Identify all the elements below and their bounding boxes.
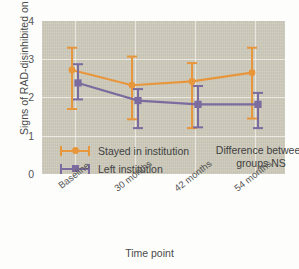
y-tick-4: 4	[8, 15, 34, 27]
plot-area: Stayed in institution Left institution D…	[42, 21, 285, 174]
legend-marker-circle-icon	[58, 145, 92, 157]
legend-item-stayed: Stayed in institution	[58, 142, 189, 160]
annotation-line-2: groups NS	[202, 157, 299, 170]
y-tick-2: 2	[8, 91, 34, 103]
significance-annotation: Difference between groups NS	[202, 144, 299, 170]
y-tick-0: 0	[8, 168, 34, 180]
y-tick-1: 1	[8, 130, 34, 142]
legend-label-stayed: Stayed in institution	[98, 145, 189, 157]
chart-figure: Signs of RAD-disinhibited on DAI 4 3 2 1…	[0, 0, 299, 269]
annotation-line-1: Difference between	[202, 144, 299, 157]
y-tick-3: 3	[8, 53, 34, 65]
x-axis-label: Time point	[0, 247, 299, 259]
